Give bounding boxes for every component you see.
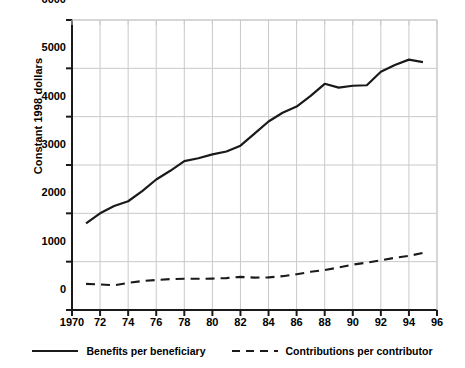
chart-plot-svg [72, 20, 437, 310]
legend-item-2[interactable]: Contributions per contributor [232, 345, 433, 357]
y-tick-label: 6000 [24, 0, 66, 5]
x-tick-label: 94 [403, 316, 415, 328]
y-tick-label: 3000 [24, 139, 66, 150]
legend-swatch-dashed [232, 346, 278, 356]
y-tick-label: 1000 [24, 236, 66, 247]
y-axis-tick-labels: 0100020003000400050006000 [18, 0, 66, 290]
x-tick-label: 80 [206, 316, 218, 328]
x-tick-label: 72 [94, 316, 106, 328]
series-line-2 [86, 253, 423, 285]
legend-label: Benefits per beneficiary [86, 345, 205, 357]
x-tick-label: 86 [290, 316, 302, 328]
x-tick-label: 1970 [60, 316, 84, 328]
x-axis-tick-labels: 197072747678808284868890929496 [72, 316, 437, 334]
legend-label: Contributions per contributor [286, 345, 433, 357]
x-tick-label: 82 [234, 316, 246, 328]
x-tick-label: 74 [122, 316, 134, 328]
plot-area [72, 20, 437, 310]
x-tick-label: 78 [178, 316, 190, 328]
series-line-1 [86, 60, 423, 224]
x-tick-label: 96 [431, 316, 443, 328]
y-tick-label: 2000 [24, 187, 66, 198]
x-tick-label: 92 [375, 316, 387, 328]
x-tick-label: 88 [319, 316, 331, 328]
y-tick-label: 0 [24, 284, 66, 295]
chart-legend: Benefits per beneficiaryContributions pe… [0, 345, 465, 357]
legend-swatch-solid [32, 346, 78, 356]
x-tick-label: 90 [347, 316, 359, 328]
chart-container: Constant 1998 dollars 010002000300040005… [0, 0, 465, 368]
legend-item-1[interactable]: Benefits per beneficiary [32, 345, 205, 357]
y-tick-label: 4000 [24, 91, 66, 102]
x-tick-label: 76 [150, 316, 162, 328]
y-tick-label: 5000 [24, 42, 66, 53]
x-tick-label: 84 [262, 316, 274, 328]
